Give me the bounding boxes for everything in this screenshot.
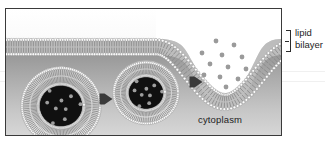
vesicle-middle xyxy=(113,61,180,126)
diagram-frame: cytoplasm xyxy=(5,8,282,136)
vesicle-left xyxy=(21,67,102,137)
lipid-bilayer-annotation: lipid bilayer xyxy=(286,28,325,58)
lipid-bilayer-label: lipid bilayer xyxy=(295,27,323,51)
lipid-bilayer-label-line1: lipid xyxy=(295,27,323,39)
diagram-canvas: cytoplasm lipid bilayer xyxy=(0,0,325,144)
bracket-icon xyxy=(286,30,291,52)
arrow-vesicle-transport-1 xyxy=(100,94,113,105)
lipid-bilayer-label-line2: bilayer xyxy=(295,39,323,51)
cytoplasm-label: cytoplasm xyxy=(198,114,242,125)
